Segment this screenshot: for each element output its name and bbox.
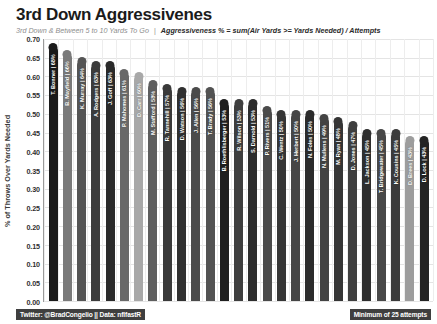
- bar-value-label-text: B. Roethlisberger | 53%: [221, 109, 227, 170]
- bar-cap-marker: [177, 87, 186, 96]
- bar-value-label: B. Roethlisberger | 53%: [221, 109, 227, 170]
- bar-value-label: B. Mayfield | 66%: [64, 61, 70, 106]
- chart-footer: Twitter: @BradCongelio || Data: nflfastR…: [0, 304, 437, 324]
- bar-value-label-text: P. Rivers | 51%: [264, 117, 270, 155]
- bar[interactable]: J. Goff | 63%: [106, 65, 115, 301]
- y-axis-tick-label: 0.50: [26, 110, 40, 119]
- gridline: [44, 301, 433, 302]
- minimum-attempts-badge: Minimum of 25 attempts: [350, 309, 431, 320]
- bar-cap-marker: [91, 61, 100, 70]
- bar-cap-marker: [163, 84, 172, 93]
- bar-cap-marker: [148, 80, 157, 89]
- bar[interactable]: L. Jackson | 45%: [362, 133, 371, 301]
- bar[interactable]: P. Rivers | 51%: [263, 110, 272, 301]
- bar-cap-marker: [277, 110, 286, 119]
- bar-slot: D. Carr | 60%: [132, 39, 146, 301]
- bar-cap-marker: [106, 61, 115, 70]
- bar-value-label-text: N. Mullens | 49%: [321, 125, 327, 168]
- bar[interactable]: J. Herbert | 50%: [291, 114, 300, 301]
- bar[interactable]: D. Brees | 43%: [405, 140, 414, 301]
- bar-value-label: D. Brees | 43%: [407, 147, 413, 185]
- bar[interactable]: D. Watson | 56%: [177, 91, 186, 301]
- bar[interactable]: K. Murray | 64%: [77, 61, 86, 301]
- bar-value-label: T. Bridgewater | 45%: [378, 140, 384, 193]
- bar-slot: D. Brees | 43%: [403, 39, 417, 301]
- bar-slot: R. Tannehill | 57%: [160, 39, 174, 301]
- bar-cap-marker: [77, 57, 86, 66]
- bar-slot: D. Jones | 47%: [346, 39, 360, 301]
- bar-value-label: J. Allen | 56%: [193, 98, 199, 133]
- plot-wrapper: % of Throws Over Yards Needed 0.700.650.…: [0, 39, 433, 302]
- bar-slot: D. Watson | 56%: [174, 39, 188, 301]
- bar[interactable]: T. Bonner | 68%: [49, 47, 58, 302]
- bar-slot: K. Murray | 64%: [75, 39, 89, 301]
- bar-value-label-text: B. Mayfield | 66%: [64, 61, 70, 106]
- bar-value-label-text: A. Rodgers | 63%: [93, 72, 99, 117]
- bar[interactable]: C. Wentz | 50%: [277, 114, 286, 301]
- bar[interactable]: P. Mahomes | 61%: [120, 73, 129, 301]
- y-axis-tick-label: 0.00: [26, 298, 40, 307]
- bar-value-label: K. Cousins | 45%: [393, 139, 399, 183]
- bar-value-label-text: N. Foles | 50%: [307, 121, 313, 158]
- bar[interactable]: R. Wilson | 53%: [234, 103, 243, 301]
- bar[interactable]: A. Rodgers | 63%: [91, 65, 100, 301]
- bar-slot: C. Wentz | 50%: [274, 39, 288, 301]
- bar-cap-marker: [305, 110, 314, 119]
- plot-area: T. Bonner | 68%B. Mayfield | 66%K. Murra…: [43, 39, 433, 302]
- bar[interactable]: B. Roethlisberger | 53%: [220, 103, 229, 301]
- bar[interactable]: K. Cousins | 45%: [391, 133, 400, 301]
- bar-cap-marker: [134, 72, 143, 81]
- bar[interactable]: M. Stafford | 58%: [148, 84, 157, 301]
- bar-slot: J. Allen | 56%: [189, 39, 203, 301]
- y-axis-tick-label: 0.05: [26, 279, 40, 288]
- bar-value-label-text: K. Cousins | 45%: [393, 139, 399, 183]
- bar[interactable]: B. Mayfield | 66%: [63, 54, 72, 301]
- bar-value-label-text: M. Ryan | 48%: [335, 129, 341, 166]
- y-axis-tick-label: 0.70: [26, 35, 40, 44]
- bar-value-label: L. Jackson | 45%: [364, 140, 370, 184]
- y-axis-tick-label: 0.15: [26, 241, 40, 250]
- bar-value-label: D. Carr | 60%: [136, 84, 142, 118]
- bar[interactable]: N. Foles | 50%: [305, 114, 314, 301]
- bar-value-label-text: D. Jones | 47%: [350, 132, 356, 170]
- bar[interactable]: D. Jones | 47%: [348, 125, 357, 301]
- bar[interactable]: D. Carr | 60%: [134, 76, 143, 301]
- bar[interactable]: M. Ryan | 48%: [334, 121, 343, 301]
- bar-cap-marker: [362, 129, 371, 138]
- bar[interactable]: N. Mullens | 49%: [320, 118, 329, 301]
- bar-cap-marker: [420, 136, 429, 145]
- bar[interactable]: D. Lock | 43%: [420, 140, 429, 301]
- bar-slot: T. Bridgewater | 45%: [374, 39, 388, 301]
- bar-cap-marker: [206, 87, 215, 96]
- y-axis-tick-label: 0.30: [26, 185, 40, 194]
- bar[interactable]: S. Darnold | 53%: [248, 103, 257, 301]
- bar-value-label-text: C. Wentz | 50%: [278, 121, 284, 160]
- bar-cap-marker: [291, 110, 300, 119]
- bar-cap-marker: [120, 69, 129, 78]
- bar[interactable]: R. Tannehill | 57%: [163, 88, 172, 301]
- subtitle-formula: Aggressiveness % = sum(Air Yards >= Yard…: [161, 26, 381, 35]
- bar-slot: T. Bonner | 68%: [46, 39, 60, 301]
- bar-value-label-text: R. Tannehill | 57%: [164, 95, 170, 141]
- y-axis-title-text: % of Throws Over Yards Needed: [2, 114, 11, 226]
- bar[interactable]: T. Bridgewater | 45%: [377, 133, 386, 301]
- chart-subtitle: 3rd Down & Between 5 to 10 Yards To Go |…: [16, 26, 437, 35]
- bar[interactable]: T. Brady | 56%: [206, 91, 215, 301]
- subtitle-separator: |: [154, 26, 156, 35]
- bar-cap-marker: [348, 121, 357, 130]
- bar-value-label: N. Foles | 50%: [307, 121, 313, 158]
- bar-slot: J. Herbert | 50%: [289, 39, 303, 301]
- bar-slot: T. Brady | 56%: [203, 39, 217, 301]
- bar-slot: L. Jackson | 45%: [360, 39, 374, 301]
- y-axis-tick-label: 0.60: [26, 72, 40, 81]
- bar-value-label: P. Mahomes | 61%: [121, 80, 127, 127]
- bar-value-label-text: L. Jackson | 45%: [364, 140, 370, 184]
- bar-value-label: K. Murray | 64%: [79, 69, 85, 110]
- bar-cap-marker: [263, 106, 272, 115]
- bar-slot: M. Ryan | 48%: [331, 39, 345, 301]
- bar-value-label-text: P. Mahomes | 61%: [121, 80, 127, 127]
- bar-slot: B. Mayfield | 66%: [60, 39, 74, 301]
- y-axis-tick-label: 0.20: [26, 222, 40, 231]
- bar[interactable]: J. Allen | 56%: [191, 91, 200, 301]
- bar-cap-marker: [405, 136, 414, 145]
